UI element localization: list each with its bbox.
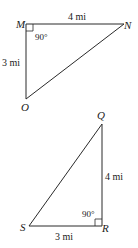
side-label-qr: 4 mi	[105, 171, 123, 182]
angle-label-m: 90°	[35, 32, 48, 42]
right-angle-marker-r	[95, 219, 102, 226]
diagram-canvas: M N O 90° 4 mi 3 mi Q R S 90° 4 mi 3 mi	[0, 0, 138, 248]
side-label-mn: 4 mi	[68, 11, 86, 22]
vertex-label-r: R	[101, 222, 109, 234]
triangle-mno: M N O 90° 4 mi 3 mi	[2, 11, 132, 113]
triangle-qrs: Q R S 90° 4 mi 3 mi	[20, 109, 123, 242]
vertex-label-m: M	[15, 18, 26, 30]
vertex-label-o: O	[21, 101, 29, 113]
side-label-mo: 3 mi	[2, 57, 20, 68]
angle-label-r: 90°	[82, 209, 95, 219]
vertex-label-n: N	[123, 19, 132, 31]
side-label-sr: 3 mi	[55, 231, 73, 242]
right-angle-marker-m	[26, 24, 33, 31]
vertex-label-s: S	[20, 221, 26, 233]
vertex-label-q: Q	[97, 109, 105, 121]
